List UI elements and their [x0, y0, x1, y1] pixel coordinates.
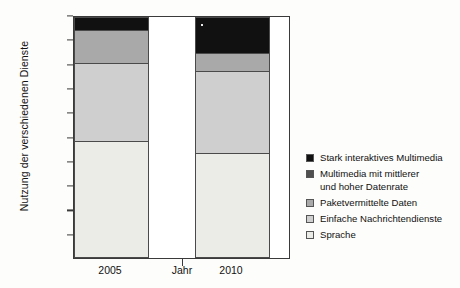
bar-2010[interactable]: [195, 17, 270, 258]
bar-2010-segment-paketvermittelte-daten: [196, 54, 269, 72]
legend-item-multimedia-mittlere-hohe-datenrate[interactable]: Multimedia mit mittlerer: [306, 168, 458, 180]
bar-2005-segment-paketvermittelte-daten: [75, 31, 148, 64]
x-tick-label-2010: 2010: [186, 264, 276, 276]
bar-2005-segment-sprache: [75, 142, 148, 258]
legend-label-multimedia-mittlere-hohe-datenrate: Multimedia mit mittlerer: [320, 168, 419, 180]
legend-swatch-icon-sprache: [306, 231, 314, 239]
bar-2010-segment-stark-interaktives-multimedia: [196, 17, 269, 54]
bar-2005[interactable]: [74, 17, 149, 258]
print-artifact-speck: [201, 24, 203, 26]
legend-item-sprache[interactable]: Sprache: [306, 229, 458, 241]
legend-label-einfache-nachrichtendienste: Einfache Nachrichtendienste: [320, 213, 442, 225]
legend-swatch-icon-paketvermittelte-daten: [306, 199, 314, 207]
legend-swatch-icon-stark-interaktives-multimedia: [306, 154, 314, 162]
legend-item-einfache-nachrichtendienste[interactable]: Einfache Nachrichtendienste: [306, 213, 458, 225]
bar-2010-segment-einfache-nachrichtendienste: [196, 72, 269, 154]
bar-2010-segment-sprache: [196, 154, 269, 258]
bar-2005-segment-einfache-nachrichtendienste: [75, 64, 148, 142]
legend-swatch-icon-multimedia-mittlere-hohe-datenrate: [306, 170, 314, 178]
legend-label-multimedia-continuation: und hoher Datenrate: [320, 181, 458, 193]
legend-label-paketvermittelte-daten: Paketvermittelte Daten: [320, 197, 417, 209]
legend-item-stark-interaktives-multimedia[interactable]: Stark interaktives Multimedia: [306, 152, 458, 164]
legend-label-sprache: Sprache: [320, 229, 356, 241]
chart-figure: Nutzung der verschiedenen Dienste 100% 9…: [0, 0, 460, 288]
plot-area: [73, 16, 290, 259]
legend-label-stark-interaktives-multimedia: Stark interaktives Multimedia: [320, 152, 443, 164]
chart-legend: Stark interaktives Multimedia Multimedia…: [306, 152, 458, 245]
bar-2005-segment-multimedia-mittlere-hohe-datenrate: [75, 17, 148, 31]
legend-swatch-icon-einfache-nachrichtendienste: [306, 215, 314, 223]
y-axis-title: Nutzung der verschiedenen Dienste: [18, 16, 30, 236]
legend-item-paketvermittelte-daten[interactable]: Paketvermittelte Daten: [306, 197, 458, 209]
